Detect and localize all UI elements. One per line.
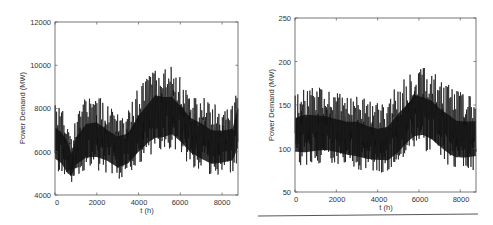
left-chart: 12000 10000 8000 6000 4000 0 2000 4000 6… xyxy=(18,18,238,215)
right-y-axis-label: Power Demand (MW) xyxy=(267,68,276,141)
left-ytick-4000: 4000 xyxy=(34,191,51,200)
left-xtick-8000: 8000 xyxy=(214,198,231,207)
right-ytick-100: 100 xyxy=(278,145,291,154)
left-ytick-6000: 6000 xyxy=(34,148,51,157)
left-ytick-10000: 10000 xyxy=(30,61,51,70)
right-ytick-200: 200 xyxy=(278,58,291,67)
left-xtick-6000: 6000 xyxy=(172,198,189,207)
right-xtick-6000: 6000 xyxy=(412,195,429,204)
right-xtick-2000: 2000 xyxy=(329,195,346,204)
left-x-axis-label: t (h) xyxy=(140,206,154,215)
right-chart: 250 200 150 100 50 0 2000 4000 6000 8000… xyxy=(258,14,478,216)
right-xtick-0: 0 xyxy=(294,195,298,204)
left-y-axis-label: Power Demand (MW) xyxy=(18,71,27,144)
left-series-line xyxy=(55,67,238,182)
right-series-line xyxy=(295,68,476,172)
left-xtick-2000: 2000 xyxy=(89,198,106,207)
left-xtick-0: 0 xyxy=(55,198,59,207)
right-ytick-150: 150 xyxy=(278,101,291,110)
right-x-axis-label: t (h) xyxy=(379,203,393,212)
figure-canvas: 12000 10000 8000 6000 4000 0 2000 4000 6… xyxy=(0,0,493,225)
left-ytick-8000: 8000 xyxy=(34,104,51,113)
page-rule-divider xyxy=(258,214,478,216)
right-ytick-50: 50 xyxy=(283,188,291,197)
left-ytick-12000: 12000 xyxy=(30,18,51,27)
right-xtick-8000: 8000 xyxy=(453,195,470,204)
right-ytick-250: 250 xyxy=(278,14,291,23)
